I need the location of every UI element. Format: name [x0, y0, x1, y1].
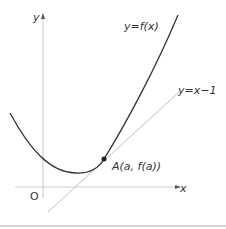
- tangent-label: y=x−1: [177, 84, 216, 97]
- function-graph: y x O y=f(x) y=x−1 A(a, f(a)): [0, 0, 226, 229]
- origin-label: O: [30, 190, 39, 203]
- point-a-label: A(a, f(a)): [111, 160, 161, 173]
- tangent-point-a: [102, 157, 107, 162]
- curve-f: [10, 15, 178, 173]
- tangent-line: [48, 93, 178, 212]
- x-axis-label: x: [179, 182, 187, 195]
- y-axis-label: y: [32, 11, 40, 24]
- curve-label: y=f(x): [123, 20, 159, 33]
